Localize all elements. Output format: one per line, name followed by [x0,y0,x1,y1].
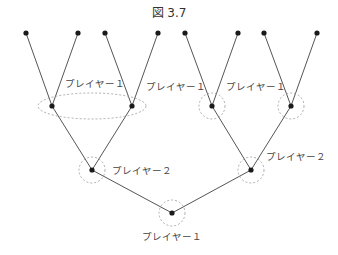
terminal-node [182,30,187,35]
decision-node [209,103,214,108]
terminal-node [23,30,28,35]
figure-title: 図 3.7 [152,6,187,20]
game-tree-diagram: 図 3.7 [0,0,338,255]
decision-node [288,103,293,108]
decision-node [89,167,94,172]
information-sets [38,93,304,226]
label-left-info-set: プレイヤー１ [65,78,125,89]
terminal-node [261,30,266,35]
tree-nodes [23,30,319,215]
terminal-node [75,30,80,35]
label-right-p2: プレイヤー２ [266,151,326,162]
terminal-node [314,30,319,35]
label-right-p1-b: プレイヤー１ [226,81,286,92]
tree-edges [26,33,317,213]
decision-node [49,103,54,108]
root-node [169,210,174,215]
terminal-node [235,30,240,35]
decision-node [129,103,134,108]
label-root: プレイヤー１ [142,231,202,242]
terminal-node [155,30,160,35]
decision-node [248,167,253,172]
label-right-p1-a: プレイヤー１ [146,81,206,92]
label-left-p2: プレイヤー２ [112,165,172,176]
terminal-node [102,30,107,35]
